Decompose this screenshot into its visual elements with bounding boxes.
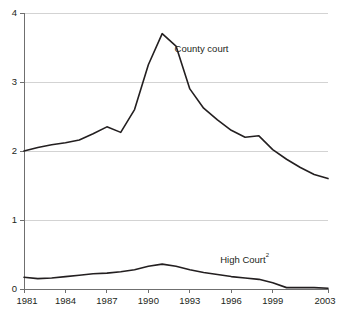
series-annotations-group: County courtHigh Court2: [175, 43, 270, 265]
y-tick-label-2: 2: [12, 145, 17, 156]
y-tick-label-0: 0: [12, 283, 17, 294]
x-tick-label-1999: 1999: [262, 295, 283, 306]
series-line-high-court: [24, 264, 328, 288]
y-tick-label-1: 1: [12, 214, 17, 225]
y-tick-label-3: 3: [12, 76, 17, 87]
x-tick-label-2003: 2003: [314, 295, 335, 306]
line-chart: 01234 19811984198719901993199619992003 C…: [0, 0, 347, 312]
x-axis-ticks: 19811984198719901993199619992003: [16, 289, 335, 306]
series-label-county-court: County court: [175, 43, 229, 54]
x-tick-label-1993: 1993: [179, 295, 200, 306]
x-tick-label-1990: 1990: [138, 295, 159, 306]
x-tick-label-1987: 1987: [96, 295, 117, 306]
data-series-group: [24, 34, 328, 289]
chart-container: 01234 19811984198719901993199619992003 C…: [0, 0, 347, 312]
x-tick-label-1981: 1981: [16, 295, 37, 306]
y-axis-ticks: 01234: [12, 7, 24, 294]
series-line-county-court: [24, 34, 328, 179]
series-label-high-court: High Court2: [220, 252, 269, 265]
x-tick-label-1984: 1984: [55, 295, 76, 306]
x-tick-label-1996: 1996: [221, 295, 242, 306]
y-tick-label-4: 4: [12, 7, 17, 18]
